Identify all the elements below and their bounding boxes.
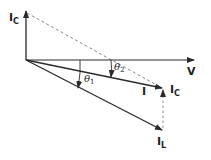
il-label: IL	[157, 135, 166, 150]
theta2-label: θ2	[114, 61, 125, 74]
phasor-diagram: IC V I IC IL θ1 θ2	[0, 0, 211, 160]
theta1-arc	[78, 60, 80, 88]
ic-vertical-label: IC	[9, 11, 19, 26]
theta2-arc	[111, 60, 112, 77]
theta1-label: θ1	[84, 73, 95, 86]
v-label: V	[187, 65, 196, 78]
dashed-ic-to-i-line	[27, 13, 162, 88]
i-label: I	[142, 85, 146, 98]
ic-shifted-label: IC	[170, 83, 180, 98]
